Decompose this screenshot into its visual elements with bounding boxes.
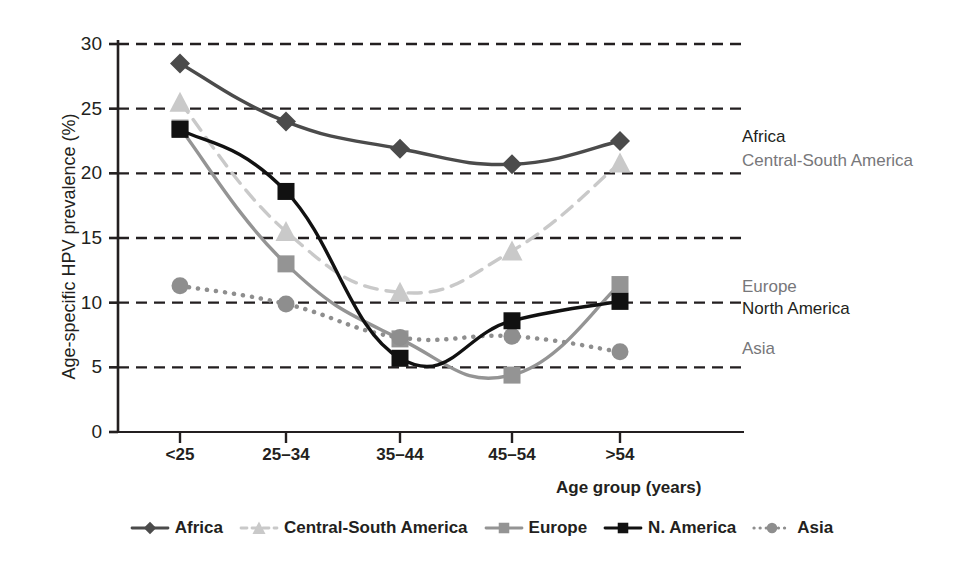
marker-triangle: [502, 240, 523, 260]
marker-square: [612, 276, 629, 293]
marker-diamond: [170, 53, 190, 73]
marker-square: [612, 293, 629, 310]
legend-swatch-diamond-icon: [130, 520, 170, 536]
series-line: [180, 102, 620, 293]
marker-square: [172, 121, 189, 138]
marker-square: [618, 523, 629, 534]
marker-square: [278, 183, 295, 200]
legend-label: Central-South America: [284, 518, 468, 538]
legend-item-europe[interactable]: Europe: [484, 518, 588, 538]
marker-square: [504, 312, 521, 329]
marker-diamond: [276, 112, 296, 132]
chart-root: Age-specific HPV prevalence (%) 30252015…: [0, 0, 963, 563]
marker-circle: [278, 295, 295, 312]
series-label-asia: Asia: [742, 340, 775, 357]
marker-diamond: [144, 522, 156, 534]
marker-circle: [767, 523, 778, 534]
marker-diamond: [390, 139, 410, 159]
legend-swatch-circle-icon: [752, 520, 792, 536]
legend-swatch-square-icon: [484, 520, 524, 536]
legend-item-central-south-america[interactable]: Central-South America: [239, 518, 468, 538]
legend-swatch-square-icon: [603, 520, 643, 536]
series-label-central-south-america: Central-South America: [742, 152, 913, 169]
marker-circle: [504, 328, 521, 345]
marker-triangle: [170, 92, 191, 112]
marker-triangle: [610, 152, 631, 172]
series-africa: [170, 53, 630, 174]
marker-circle: [612, 343, 629, 360]
legend-item-n-america[interactable]: N. America: [603, 518, 736, 538]
legend-item-africa[interactable]: Africa: [130, 518, 223, 538]
legend-item-asia[interactable]: Asia: [752, 518, 833, 538]
marker-square: [504, 367, 521, 384]
series-central-south-america: [170, 92, 631, 302]
marker-diamond: [502, 154, 522, 174]
chart-legend: AfricaCentral-South AmericaEuropeN. Amer…: [0, 518, 963, 538]
series-label-n-america: North America: [742, 300, 850, 317]
marker-square: [392, 350, 409, 367]
marker-circle: [392, 329, 409, 346]
legend-label: N. America: [648, 518, 736, 538]
plot-area: [0, 0, 963, 563]
series-label-africa: Africa: [742, 128, 785, 145]
legend-swatch-triangle-icon: [239, 520, 279, 536]
marker-square: [498, 523, 509, 534]
series-label-europe: Europe: [742, 278, 797, 295]
legend-label: Europe: [529, 518, 588, 538]
marker-circle: [172, 277, 189, 294]
legend-label: Asia: [797, 518, 833, 538]
marker-square: [278, 255, 295, 272]
marker-diamond: [610, 131, 630, 151]
legend-label: Africa: [175, 518, 223, 538]
